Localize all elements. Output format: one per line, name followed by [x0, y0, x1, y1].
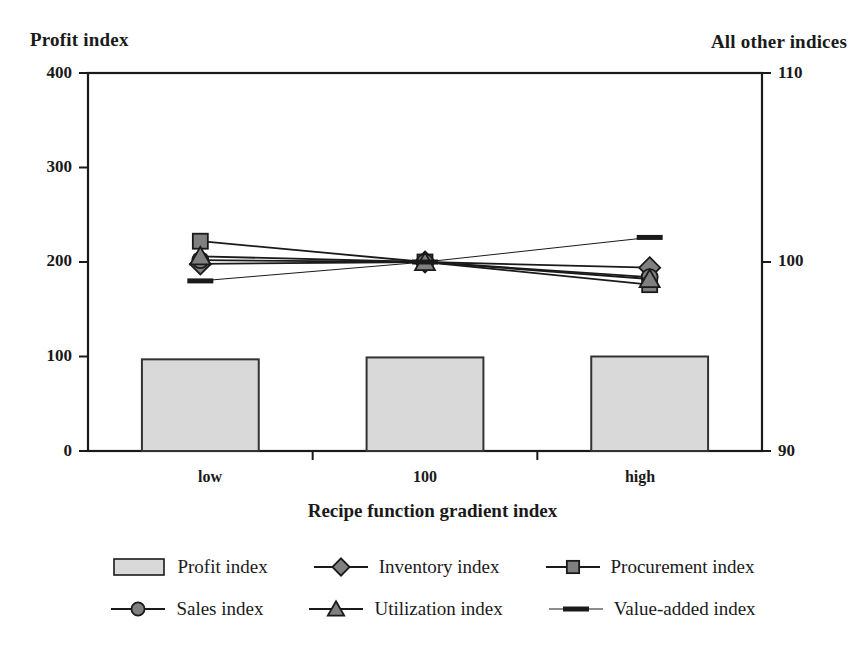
- bar-low: [142, 359, 259, 451]
- bar-high: [591, 357, 708, 452]
- legend-label: Sales index: [176, 598, 263, 620]
- legend-item-value-added-index[interactable]: Value-added index: [547, 596, 756, 622]
- legend-label: Value-added index: [614, 598, 756, 620]
- legend-label: Utilization index: [374, 598, 502, 620]
- legend-swatch-circle-icon: [109, 596, 167, 622]
- legend-bar-icon: [114, 559, 164, 575]
- legend-label: Profit index: [177, 556, 267, 578]
- marker-square: [566, 561, 578, 573]
- legend-label: Procurement index: [611, 556, 755, 578]
- chart-legend: Profit indexInventory indexProcurement i…: [0, 546, 865, 630]
- legend-swatch-bar-swatch-icon: [110, 554, 168, 580]
- legend-item-profit-index[interactable]: Profit index: [110, 554, 267, 580]
- legend-row-0: Profit indexInventory indexProcurement i…: [0, 546, 865, 588]
- marker-circle: [132, 602, 145, 615]
- legend-swatch-diamond-icon: [312, 554, 370, 580]
- legend-item-utilization-index[interactable]: Utilization index: [307, 596, 502, 622]
- series-line-segment: [200, 262, 425, 281]
- legend-swatch-square-icon: [544, 554, 602, 580]
- bar-100: [367, 357, 484, 451]
- legend-label: Inventory index: [379, 556, 500, 578]
- series-line-segment: [425, 237, 650, 262]
- legend-item-sales-index[interactable]: Sales index: [109, 596, 263, 622]
- legend-item-inventory-index[interactable]: Inventory index: [312, 554, 500, 580]
- marker-diamond: [332, 558, 349, 575]
- chart-container: Profit index All other indices 400 300 2…: [0, 0, 865, 653]
- legend-swatch-triangle-icon: [307, 596, 365, 622]
- legend-row-1: Sales indexUtilization indexValue-added …: [0, 588, 865, 630]
- legend-item-procurement-index[interactable]: Procurement index: [544, 554, 755, 580]
- legend-swatch-dash-icon: [547, 596, 605, 622]
